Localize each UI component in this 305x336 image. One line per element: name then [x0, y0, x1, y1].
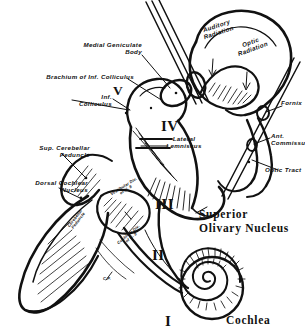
cochlea-shape: [178, 248, 245, 319]
auditory-pathway-figure: Medial Geniculate Body Brachium of Inf. …: [0, 0, 305, 336]
numeral-iv: IV: [161, 118, 179, 134]
label-cp: C.P.: [100, 277, 114, 281]
label-inf-colliculus: Inf. Colliculus: [36, 94, 112, 107]
label-optic-tract: Optic Tract: [265, 167, 305, 174]
numeral-i: I: [165, 313, 171, 329]
probe-rods-left: [146, 0, 208, 104]
label-ant-commissure: Ant. Commissure: [271, 133, 305, 146]
numeral-iii: III: [155, 196, 174, 212]
label-medial-geniculate-body: Medial Geniculate Body: [58, 42, 142, 55]
label-dorsal-cochlear-nucleus: Dorsal Cochlear Nucleus: [0, 180, 88, 193]
thalamus-mass: [200, 66, 259, 108]
label-superior-olivary-nucleus: Superior Olivary Nucleus: [199, 208, 289, 236]
label-brachium-inf-colliculus: Brachium of Inf. Colliculus: [18, 74, 134, 81]
numeral-ii: II: [152, 247, 165, 263]
numeral-v: V: [113, 84, 123, 99]
cerebellar-peduncle-shape: [19, 196, 108, 312]
label-cochlea: Cochlea: [226, 314, 271, 326]
label-lateral-lemniscus: Lateral Lemniscus: [160, 136, 208, 149]
label-fornix: Fornix: [281, 100, 305, 107]
anatomy-line-drawing: [0, 0, 305, 336]
label-sup-cerebellar-peduncle: Sup. Cerebellar Peduncle: [0, 145, 90, 158]
probe-rods-right: [222, 58, 300, 199]
